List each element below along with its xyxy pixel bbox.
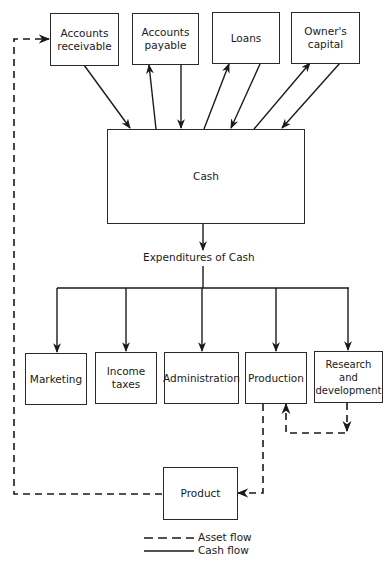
expenditures-label: Expenditures of Cash — [143, 251, 255, 263]
arrow-cash-to-ap — [149, 65, 156, 129]
node-owners-capital: Owner's capital — [291, 12, 360, 64]
node-label: Income taxes — [107, 365, 146, 391]
arrow-owners-capital-to-cash — [282, 63, 340, 128]
node-income-taxes: Income taxes — [95, 352, 157, 404]
node-label: Production — [248, 372, 304, 385]
node-cash: Cash — [107, 129, 305, 224]
node-label: Marketing — [30, 373, 82, 386]
node-production: Production — [245, 352, 307, 404]
asset-flow-production-to-product — [238, 404, 263, 493]
node-label: Product — [181, 487, 221, 500]
node-research-development: Research and development — [314, 351, 383, 403]
arrow-loans-to-cash — [231, 64, 260, 128]
node-label: Accounts receivable — [57, 27, 111, 53]
asset-flow-research-to-production-b — [286, 404, 345, 433]
node-label: Accounts payable — [142, 26, 190, 52]
arrow-cash-to-loans — [204, 64, 229, 129]
node-marketing: Marketing — [25, 353, 87, 405]
node-accounts-receivable: Accounts receivable — [50, 13, 119, 66]
arrow-ar-to-cash — [84, 65, 130, 128]
arrow-cash-to-owners-capital — [254, 63, 310, 129]
node-label: Loans — [231, 32, 262, 45]
legend-cash-flow: Cash flow — [198, 544, 249, 556]
node-loans: Loans — [212, 12, 280, 64]
node-label: Research and development — [315, 358, 382, 397]
node-label: Owner's capital — [304, 25, 347, 51]
legend-asset-flow: Asset flow — [198, 531, 252, 543]
node-accounts-payable: Accounts payable — [132, 13, 199, 65]
node-label: Administration — [163, 372, 240, 385]
node-administration: Administration — [164, 352, 239, 404]
asset-flow-product-to-ar — [14, 39, 162, 494]
node-label: Cash — [193, 170, 219, 183]
node-product: Product — [163, 467, 238, 520]
